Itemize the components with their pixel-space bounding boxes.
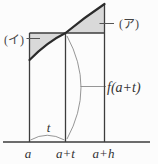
calculus-diagram-svg: (イ) (ア) f(a+t) t a a+t a+h bbox=[0, 0, 158, 164]
region-label-left: (イ) bbox=[4, 33, 24, 47]
axis-label-a-plus-h: a+h bbox=[93, 146, 115, 161]
region-label-right: (ア) bbox=[119, 17, 139, 31]
t-label: t bbox=[47, 120, 51, 135]
axis-label-a: a bbox=[25, 146, 32, 161]
axis-label-a-plus-t: a+t bbox=[56, 146, 75, 161]
calculus-figure: (イ) (ア) f(a+t) t a a+t a+h bbox=[0, 0, 158, 164]
t-arc bbox=[31, 135, 65, 140]
height-label: f(a+t) bbox=[107, 80, 141, 96]
height-brace bbox=[67, 36, 81, 139]
